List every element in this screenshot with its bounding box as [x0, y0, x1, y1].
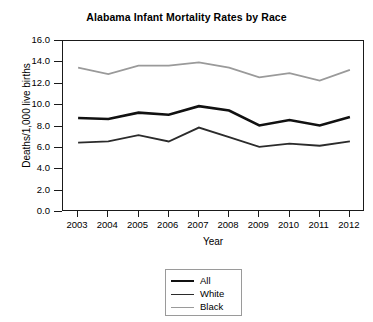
y-tick-4.0 [54, 168, 62, 169]
chart-legend: AllWhiteBlack [165, 269, 242, 316]
y-tick-14.0 [54, 61, 62, 62]
legend-item-black: Black [171, 301, 223, 313]
y-tick-2.0 [54, 190, 62, 191]
x-axis-title: Year [62, 236, 364, 247]
series-line-white [78, 128, 350, 147]
legend-item-all: All [171, 275, 211, 287]
y-tick-16.0 [54, 40, 62, 41]
series-line-black [78, 62, 350, 80]
series-line-all [78, 106, 350, 125]
legend-label: All [200, 276, 211, 286]
y-tick-12.0 [54, 83, 62, 84]
chart-title: Alabama Infant Mortality Rates by Race [0, 11, 373, 23]
y-tick-label: 8.0 [0, 121, 50, 131]
y-tick-8.0 [54, 126, 62, 127]
legend-swatch-icon [171, 294, 194, 295]
y-tick-label: 16.0 [0, 35, 50, 45]
y-tick-0.0 [54, 211, 62, 212]
y-tick-10.0 [54, 104, 62, 105]
y-tick-label: 4.0 [0, 163, 50, 173]
legend-item-white: White [171, 288, 224, 300]
y-tick-label: 14.0 [0, 56, 50, 66]
series-lines [63, 41, 365, 212]
y-tick-label: 0.0 [0, 206, 50, 216]
legend-swatch-icon [171, 307, 194, 308]
y-tick-label: 2.0 [0, 185, 50, 195]
legend-label: Black [200, 302, 223, 312]
y-tick-label: 12.0 [0, 78, 50, 88]
plot-area [62, 40, 364, 211]
legend-swatch-icon [171, 280, 194, 282]
y-tick-label: 6.0 [0, 142, 50, 152]
legend-label: White [200, 289, 224, 299]
y-tick-label: 10.0 [0, 99, 50, 109]
y-tick-6.0 [54, 147, 62, 148]
x-tick-label: 2012 [329, 220, 369, 230]
infant-mortality-line-chart: Alabama Infant Mortality Rates by Race D… [0, 0, 373, 322]
